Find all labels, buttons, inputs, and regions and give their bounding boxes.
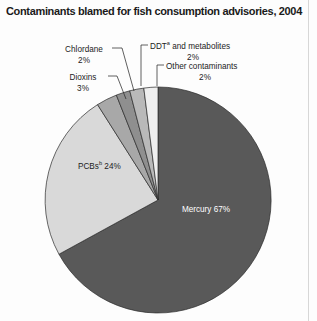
leader-line-chlordane <box>112 48 134 91</box>
callout-ddt-name-post: and metabolites <box>170 42 230 51</box>
callout-dioxins-value: 3% <box>60 84 106 95</box>
leader-line-other <box>157 65 164 86</box>
slice-label-mercury-name: Mercury <box>182 205 212 214</box>
slice-label-pcbs-name-text: PCBs <box>78 162 99 171</box>
callout-label-ddt: DDTa and metabolites 2% <box>150 42 236 63</box>
callout-other-name: Other contaminants <box>166 62 244 73</box>
callout-other-value: 2% <box>166 73 244 84</box>
slice-label-mercury-value: 67% <box>214 205 230 214</box>
slice-label-pcbs-footnote-marker: b <box>99 160 102 166</box>
callout-chlordane-value: 2% <box>58 56 110 67</box>
callout-label-dioxins: Dioxins 3% <box>60 73 106 94</box>
callout-ddt-name-pre: DDT <box>150 42 167 51</box>
figure-panel: Contaminants blamed for fish consumption… <box>0 0 317 321</box>
callout-chlordane-name: Chlordane <box>58 45 110 56</box>
pie-slices <box>45 87 271 313</box>
slice-label-pcbs-name: PCBsb <box>78 162 102 171</box>
slice-label-pcbs-value: 24% <box>104 162 120 171</box>
slice-label-pcbs: PCBsb 24% <box>78 162 118 172</box>
leader-line-ddt <box>141 45 148 86</box>
slice-label-mercury: Mercury 67% <box>180 205 232 215</box>
callout-dioxins-name: Dioxins <box>60 73 106 84</box>
callout-label-other-contaminants: Other contaminants 2% <box>166 62 244 83</box>
callout-label-chlordane: Chlordane 2% <box>58 45 110 66</box>
callout-ddt-name: DDTa and metabolites <box>150 42 236 53</box>
